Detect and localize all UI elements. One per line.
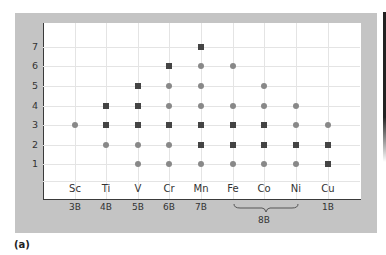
element-label: Fe bbox=[220, 184, 246, 194]
data-point-square bbox=[198, 44, 204, 50]
data-point-circle bbox=[261, 103, 267, 109]
grid-line-v bbox=[296, 23, 297, 199]
data-point-circle bbox=[293, 161, 299, 167]
data-point-circle bbox=[72, 122, 78, 128]
y-tick-label: 2 bbox=[26, 140, 38, 150]
group-label: 5B bbox=[125, 202, 151, 212]
grid-line-v bbox=[328, 23, 329, 199]
data-point-circle bbox=[293, 103, 299, 109]
group-label-8b: 8B bbox=[249, 215, 279, 225]
data-point-circle bbox=[198, 161, 204, 167]
element-label: Cr bbox=[156, 184, 182, 194]
grid-line-v bbox=[106, 23, 107, 199]
data-point-circle bbox=[261, 161, 267, 167]
data-point-circle bbox=[135, 142, 141, 148]
element-label: Ni bbox=[283, 184, 309, 194]
data-point-circle bbox=[230, 103, 236, 109]
data-point-square bbox=[325, 142, 331, 148]
grid-line-v bbox=[138, 23, 139, 199]
data-point-circle bbox=[325, 122, 331, 128]
y-tick-label: 6 bbox=[26, 61, 38, 71]
group-label: 3B bbox=[62, 202, 88, 212]
data-point-square bbox=[325, 161, 331, 167]
data-point-square bbox=[230, 122, 236, 128]
grid-line-v bbox=[264, 23, 265, 199]
data-point-square bbox=[198, 142, 204, 148]
data-point-square bbox=[103, 103, 109, 109]
data-point-circle bbox=[135, 161, 141, 167]
data-point-square bbox=[293, 142, 299, 148]
data-point-square bbox=[135, 83, 141, 89]
data-point-circle bbox=[166, 161, 172, 167]
grid-line-v bbox=[169, 23, 170, 199]
data-point-circle bbox=[230, 63, 236, 69]
data-point-square bbox=[135, 103, 141, 109]
data-point-square bbox=[166, 122, 172, 128]
figure-caption: (a) bbox=[14, 239, 30, 250]
data-point-circle bbox=[230, 161, 236, 167]
element-label: Ti bbox=[93, 184, 119, 194]
element-label: Sc bbox=[62, 184, 88, 194]
group-label: 1B bbox=[315, 202, 341, 212]
data-point-square bbox=[166, 63, 172, 69]
data-point-circle bbox=[166, 142, 172, 148]
data-point-circle bbox=[103, 142, 109, 148]
data-point-circle bbox=[198, 83, 204, 89]
data-point-square bbox=[198, 122, 204, 128]
data-point-circle bbox=[261, 83, 267, 89]
data-point-square bbox=[103, 122, 109, 128]
y-tick-label: 3 bbox=[26, 120, 38, 130]
data-point-circle bbox=[293, 122, 299, 128]
y-tick-label: 5 bbox=[26, 81, 38, 91]
data-point-square bbox=[261, 122, 267, 128]
element-label: Co bbox=[251, 184, 277, 194]
group-label: 7B bbox=[188, 202, 214, 212]
data-point-square bbox=[135, 122, 141, 128]
group-label: 4B bbox=[93, 202, 119, 212]
data-point-square bbox=[261, 142, 267, 148]
y-tick-label: 7 bbox=[26, 42, 38, 52]
grid-line-v bbox=[75, 23, 76, 199]
data-point-circle bbox=[166, 83, 172, 89]
data-point-circle bbox=[198, 63, 204, 69]
element-label: V bbox=[125, 184, 151, 194]
y-tick-label: 4 bbox=[26, 101, 38, 111]
data-point-square bbox=[230, 142, 236, 148]
element-label: Cu bbox=[315, 184, 341, 194]
group-label: 6B bbox=[156, 202, 182, 212]
data-point-circle bbox=[166, 103, 172, 109]
grid-line-v bbox=[233, 23, 234, 199]
data-point-circle bbox=[198, 103, 204, 109]
y-tick-label: 1 bbox=[26, 159, 38, 169]
group-8b-brace bbox=[232, 203, 300, 215]
element-label: Mn bbox=[188, 184, 214, 194]
